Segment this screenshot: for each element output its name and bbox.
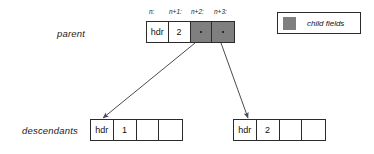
- parent-cell-count: 2: [169, 22, 191, 42]
- parent-record-box: hdr 2: [146, 21, 235, 43]
- descendant-left-cell-value: 1: [114, 120, 137, 140]
- descendant-left-cell-empty-1: [137, 120, 160, 140]
- legend-label: child fields: [307, 19, 344, 28]
- descendant-right-cell-empty-2: [302, 120, 325, 140]
- descendant-left-record-box: hdr 1: [90, 119, 183, 141]
- field-caption-n-plus-2: n+2:: [191, 8, 204, 15]
- descendant-left-cell-empty-2: [159, 120, 182, 140]
- descendant-right-record-box: hdr 2: [233, 119, 326, 141]
- parent-cell-hdr: hdr: [147, 22, 169, 42]
- descendants-row-label: descendants: [22, 125, 78, 136]
- field-caption-n: n:: [149, 8, 154, 15]
- descendant-right-cell-value: 2: [257, 120, 280, 140]
- pointer-arrow-first-child: [103, 43, 195, 118]
- descendant-right-cell-empty-1: [280, 120, 303, 140]
- field-caption-n-plus-1: n+1:: [169, 8, 182, 15]
- child-fields-swatch-icon: [283, 17, 296, 30]
- legend-box: child fields: [277, 12, 361, 34]
- pointer-dot-icon: [222, 31, 225, 34]
- parent-cell-child-pointer-1: [191, 22, 213, 42]
- parent-cell-child-pointer-2: [212, 22, 234, 42]
- pointer-arrow-second-child: [221, 43, 248, 118]
- field-caption-n-plus-3: n+3:: [214, 8, 227, 15]
- descendant-left-cell-hdr: hdr: [91, 120, 114, 140]
- parent-row-label: parent: [57, 28, 85, 39]
- pointer-dot-icon: [200, 31, 203, 34]
- descendant-right-cell-hdr: hdr: [234, 120, 257, 140]
- diagram-canvas: parent descendants n: n+1: n+2: n+3: hdr…: [0, 0, 374, 154]
